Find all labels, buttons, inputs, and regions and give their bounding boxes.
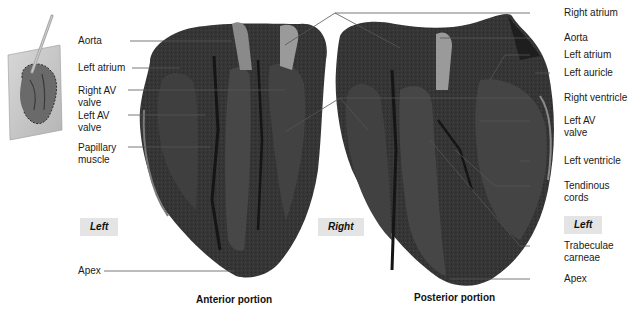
side-tag-left-anterior: Left xyxy=(80,218,118,236)
label-aorta-posterior: Aorta xyxy=(564,32,588,44)
side-tag-right: Right xyxy=(318,218,364,236)
label-left-av-valve-posterior: Left AV valve xyxy=(564,115,596,139)
caption-posterior-portion: Posterior portion xyxy=(414,292,495,304)
label-right-av-valve: Right AV valve xyxy=(78,85,116,109)
label-trabeculae-carneae: Trabeculae carneae xyxy=(564,240,614,264)
label-apex-posterior: Apex xyxy=(564,273,587,285)
label-tendinous-cords: Tendinous cords xyxy=(564,180,610,204)
label-left-av-valve-anterior: Left AV valve xyxy=(78,110,110,134)
label-right-atrium: Right atrium xyxy=(564,7,618,19)
caption-anterior-portion: Anterior portion xyxy=(196,294,272,306)
label-left-atrium-posterior: Left atrium xyxy=(564,49,611,61)
label-papillary-muscle: Papillary muscle xyxy=(78,142,116,166)
label-right-ventricle: Right ventricle xyxy=(564,92,627,104)
label-aorta-anterior: Aorta xyxy=(78,35,102,47)
heart-section-figure: Aorta Left atrium Right AV valve Left AV… xyxy=(0,0,632,318)
label-apex-anterior: Apex xyxy=(78,265,101,277)
inset-heart-icon xyxy=(8,16,62,140)
label-left-atrium-anterior: Left atrium xyxy=(78,62,125,74)
anterior-heart-section xyxy=(140,22,327,277)
side-tag-left-posterior: Left xyxy=(564,216,602,234)
label-left-auricle: Left auricle xyxy=(564,67,613,79)
label-left-ventricle: Left ventricle xyxy=(564,155,621,167)
